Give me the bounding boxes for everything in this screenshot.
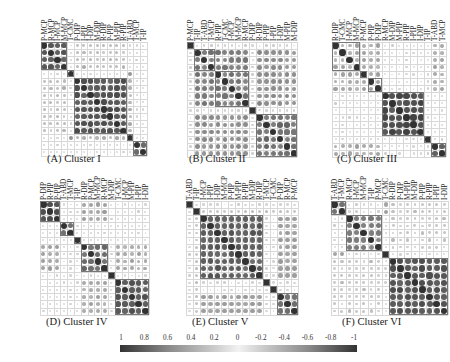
correlation-dot (43, 80, 46, 83)
matrix-cell (81, 265, 88, 272)
matrix-cell (94, 92, 101, 99)
correlation-dot (403, 114, 410, 121)
correlation-dot (355, 303, 358, 306)
correlation-dot (251, 210, 254, 213)
matrix-cell (368, 92, 375, 99)
matrix-cell (368, 42, 375, 49)
matrix-cell (135, 286, 142, 293)
matrix-cell (404, 308, 411, 315)
matrix-cell (215, 121, 222, 128)
correlation-dot (140, 149, 146, 155)
matrix-cell (107, 42, 114, 49)
matrix-cell (67, 237, 74, 244)
matrix-cell (67, 229, 74, 236)
matrix-cell (441, 308, 448, 315)
correlation-dot (403, 129, 409, 135)
matrix-cell (193, 237, 200, 244)
matrix-cell (47, 244, 54, 251)
correlation-dot (229, 86, 236, 93)
correlation-dot (215, 50, 220, 55)
matrix-cell (40, 293, 47, 300)
matrix-cell (270, 286, 277, 293)
matrix-cell (207, 208, 214, 215)
correlation-dot (243, 86, 248, 91)
correlation-dot (41, 42, 47, 48)
correlation-dot (413, 88, 415, 90)
correlation-dot (236, 122, 241, 127)
correlation-dot (391, 145, 393, 147)
correlation-dot (377, 260, 380, 263)
matrix-cell (186, 229, 193, 236)
matrix-cell (140, 49, 147, 56)
matrix-cell (54, 63, 61, 70)
matrix-cell (424, 92, 431, 99)
correlation-dot (334, 102, 337, 105)
matrix-cell (242, 279, 249, 286)
correlation-dot (420, 81, 422, 83)
correlation-dot (96, 302, 100, 306)
correlation-dot (117, 211, 119, 213)
matrix-cell (389, 143, 396, 150)
matrix-cell (397, 208, 404, 215)
matrix-cell (41, 63, 48, 70)
correlation-dot (285, 238, 289, 242)
correlation-dot (433, 87, 437, 91)
matrix-cell (235, 244, 242, 251)
matrix-cell (291, 237, 298, 244)
matrix-cell (54, 208, 61, 215)
matrix-cell (346, 92, 353, 99)
correlation-dot (56, 274, 58, 276)
matrix-cell (101, 265, 108, 272)
correlation-dot (339, 202, 344, 207)
matrix-cell (368, 107, 375, 114)
matrix-cell (74, 244, 81, 251)
matrix-cell (67, 141, 74, 148)
correlation-dot (355, 58, 359, 62)
correlation-dot (188, 225, 190, 227)
correlation-dot (427, 116, 429, 118)
matrix-cell (431, 64, 438, 71)
matrix-cell (284, 100, 291, 107)
correlation-dot (131, 275, 133, 277)
matrix-cell (426, 222, 433, 229)
correlation-dot (362, 281, 365, 284)
correlation-dot (202, 122, 207, 127)
correlation-dot (130, 245, 134, 249)
matrix-cell (100, 134, 107, 141)
matrix-cell (200, 308, 207, 315)
matrix-cell (101, 215, 108, 222)
matrix-cell (88, 201, 95, 208)
matrix-cell (221, 237, 228, 244)
matrix-cell (242, 136, 249, 143)
correlation-dot (272, 204, 274, 206)
matrix-cell (389, 244, 396, 251)
correlation-dot (439, 144, 445, 150)
correlation-dot (201, 57, 208, 64)
matrix-cell (242, 258, 249, 265)
correlation-dot (421, 239, 424, 242)
correlation-dot (83, 225, 85, 227)
correlation-dot (114, 128, 120, 134)
correlation-dot (406, 45, 408, 47)
correlation-dot (103, 217, 107, 221)
correlation-dot (76, 204, 78, 206)
correlation-dot (278, 94, 283, 99)
correlation-dot (237, 115, 241, 119)
correlation-dot (88, 78, 94, 84)
correlation-dot (43, 122, 46, 125)
matrix-cell (100, 99, 107, 106)
matrix-cell (353, 208, 360, 215)
matrix-cell (193, 244, 200, 251)
correlation-dot (250, 223, 256, 229)
matrix-cell (368, 308, 375, 315)
correlation-dot (389, 100, 396, 107)
matrix-cell (403, 71, 410, 78)
correlation-dot (94, 92, 99, 97)
correlation-dot (243, 79, 248, 84)
matrix-cell (346, 143, 353, 150)
matrix-cell (424, 56, 431, 63)
matrix-cell (419, 258, 426, 265)
correlation-dot (190, 117, 192, 119)
correlation-dot (292, 245, 296, 249)
correlation-dot (376, 51, 380, 55)
